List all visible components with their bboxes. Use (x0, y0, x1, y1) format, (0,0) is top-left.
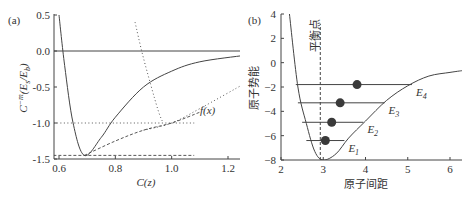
y-tick-label: −6 (264, 130, 276, 142)
y-tick-label: −4 (264, 105, 276, 117)
y-tick-label: 0.0 (36, 45, 50, 57)
y-tick-label: 0.5 (36, 9, 50, 21)
figure: (a)0.50.0-0.5-1.0-1.50.60.81.01.2f(x)C(z… (0, 0, 475, 197)
y-tick-label: -0.5 (33, 81, 51, 93)
energy-level-label: E2 (366, 123, 378, 138)
atom-ball (336, 98, 345, 107)
y-tick-label: -1.0 (33, 117, 51, 129)
y-tick-label: -1.5 (33, 153, 51, 165)
x-tick-label: 1.0 (165, 162, 179, 174)
x-tick-label: 2 (278, 163, 284, 175)
y-tick-label: 4 (271, 8, 277, 20)
x-tick-label: 0.8 (108, 162, 122, 174)
y-tick-label: 2 (271, 32, 277, 44)
fx-annotation: f(x) (200, 104, 216, 117)
y-axis-title: C−m(Es/Eb) (16, 63, 32, 113)
y-tick-label: −8 (264, 154, 276, 166)
atom-ball (321, 136, 330, 145)
y-tick-label: 0 (271, 57, 277, 69)
x-tick-label: 3 (321, 163, 327, 175)
x-axis-title: C(z) (137, 176, 156, 189)
panel-b: (b)420−2−4−6−823456E1E2E3E4平衡点原子间距原子势能 (247, 8, 463, 190)
series-line (135, 22, 163, 123)
x-tick-label: 5 (405, 163, 411, 175)
series-line (59, 15, 245, 156)
panel-a-label: (a) (8, 14, 21, 27)
atom-ball (327, 118, 336, 127)
y-axis-title: 原子势能 (247, 66, 260, 110)
x-tick-label: 6 (447, 163, 453, 175)
x-tick-label: 1.2 (221, 162, 235, 174)
x-axis-title: 原子间距 (344, 178, 388, 190)
x-tick-label: 4 (363, 163, 369, 175)
energy-level-label: E1 (347, 142, 359, 157)
energy-level-label: E4 (415, 86, 427, 101)
y-tick-label: −2 (264, 81, 276, 93)
panel-a: (a)0.50.0-0.5-1.0-1.50.60.81.01.2f(x)C(z… (8, 9, 245, 189)
series-line (84, 112, 199, 155)
panel-b-label: (b) (248, 14, 261, 27)
equilibrium-label: 平衡点 (309, 19, 321, 52)
x-tick-label: 0.6 (52, 162, 66, 174)
atom-ball (353, 80, 362, 89)
energy-level-label: E3 (388, 104, 400, 119)
